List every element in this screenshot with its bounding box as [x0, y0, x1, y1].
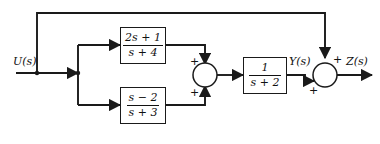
wire-y-to-summer-right	[287, 75, 314, 81]
junction-dot-split	[76, 71, 80, 75]
intermediate-signal-label: Y(s)	[289, 55, 311, 68]
summer-left-sign-top: +	[190, 56, 199, 67]
signal-wires	[0, 0, 380, 144]
summer-right-sign-top: +	[333, 54, 342, 65]
junction-dot-input	[35, 71, 39, 75]
transfer-function-block-top: 2s + 1 s + 4	[120, 27, 166, 64]
numerator-right: 1	[248, 62, 283, 75]
summer-right-sign-bottom: +	[309, 85, 318, 96]
transfer-function-block-right: 1 s + 2	[243, 57, 287, 94]
summer-left-sign-bottom: +	[190, 87, 199, 98]
transfer-function-right-expression: 1 s + 2	[248, 62, 283, 88]
denominator-top: s + 4	[122, 46, 164, 59]
transfer-function-bottom-expression: s − 2 s + 3	[126, 92, 161, 118]
output-signal-label: Z(s)	[346, 55, 368, 68]
block-diagram: 2s + 1 s + 4 s − 2 s + 3 1 s + 2 U(s) Y(…	[0, 0, 380, 144]
input-signal-label: U(s)	[13, 55, 37, 68]
transfer-function-top-expression: 2s + 1 s + 4	[122, 32, 164, 58]
denominator-bottom: s + 3	[126, 106, 161, 119]
numerator-bottom: s − 2	[126, 92, 161, 105]
transfer-function-block-bottom: s − 2 s + 3	[120, 87, 166, 124]
numerator-top: 2s + 1	[122, 32, 164, 45]
denominator-right: s + 2	[248, 76, 283, 89]
